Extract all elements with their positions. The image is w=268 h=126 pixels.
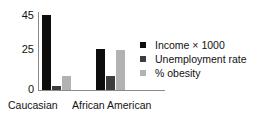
legend-item-unemployment: Unemployment rate xyxy=(140,52,268,66)
legend-label-income: Income × 1000 xyxy=(155,39,225,51)
bar-chart: 45 25 0 Caucasian African American Incom… xyxy=(0,0,268,126)
legend-label-unemployment: Unemployment rate xyxy=(155,53,247,65)
y-tick-label-25: 25 xyxy=(10,44,34,55)
y-axis-line xyxy=(38,12,39,90)
chart-legend: Income × 1000 Unemployment rate % obesit… xyxy=(140,38,268,80)
legend-label-obesity: % obesity xyxy=(155,67,201,79)
y-tick-label-45: 45 xyxy=(10,10,34,21)
bar-caucasian-unemployment xyxy=(52,86,61,90)
bar-african-american-income xyxy=(96,49,105,90)
legend-item-obesity: % obesity xyxy=(140,66,268,80)
x-axis-line xyxy=(38,90,165,91)
legend-swatch-icon-obesity xyxy=(140,70,146,76)
bar-african-american-unemployment xyxy=(106,76,115,90)
legend-item-income: Income × 1000 xyxy=(140,38,268,52)
legend-swatch-icon-unemployment xyxy=(140,56,146,62)
bar-group-caucasian xyxy=(42,15,71,90)
x-tick-label-african-american: African American xyxy=(72,99,151,111)
bar-african-american-obesity xyxy=(116,50,125,90)
bar-group-african-american xyxy=(96,49,125,90)
legend-swatch-icon-income xyxy=(140,42,146,48)
x-tick-label-caucasian: Caucasian xyxy=(8,99,58,111)
y-tick-label-0: 0 xyxy=(10,84,34,95)
bar-caucasian-income xyxy=(42,15,51,90)
bar-caucasian-obesity xyxy=(62,76,71,90)
